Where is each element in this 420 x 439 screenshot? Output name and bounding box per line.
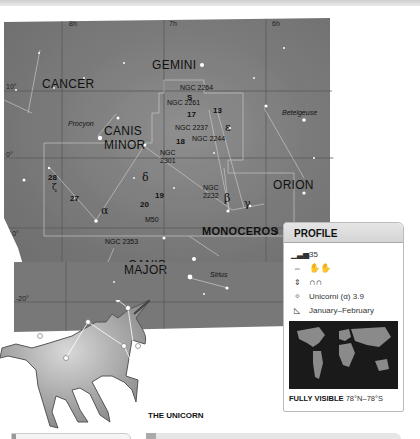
- ngc-2301-b: 2301: [160, 157, 176, 164]
- unicorn-figure: [0, 300, 150, 430]
- best-seen-value: January–February: [309, 306, 374, 315]
- ngc-2264: NGC 2264: [180, 84, 213, 91]
- ngc-2301-a: NGC: [160, 149, 176, 156]
- ngc-2353: NGC 2353: [105, 238, 138, 245]
- label-3: 3: [274, 227, 278, 236]
- profile-best-seen: ◺ January–February: [284, 303, 403, 317]
- visible-range-value: 78°N–78°S: [346, 394, 383, 403]
- label-28: 28: [48, 173, 57, 182]
- ngc-2232-a: NGC: [203, 184, 219, 191]
- constellation-orion: ORION: [273, 178, 314, 192]
- visible-label: FULLY VISIBLE: [289, 394, 344, 403]
- ngc-2261: NGC 2261: [167, 99, 200, 106]
- ngc-2232-b: 2232: [203, 192, 219, 199]
- ngc-2244: NGC 2244: [192, 135, 225, 142]
- brightest-star-value: Unicorni (α) 3.9: [309, 292, 364, 301]
- greek-epsilon: ε: [225, 121, 231, 134]
- fingers-icon: ∩∩: [309, 277, 322, 287]
- ra-label-6h: 6h: [272, 20, 280, 27]
- bottom-tab-left: [11, 433, 131, 439]
- label-17: 17: [187, 110, 196, 119]
- profile-panel: PROFILE ▁▃▅ 35 ⇔ ✋✋ ⇕ ∩∩ ✧ Unicorni (α) …: [283, 222, 404, 412]
- profile-dec-visibility: ⇕ ∩∩: [284, 275, 403, 289]
- figure-caption: THE UNICORN: [148, 411, 204, 420]
- calendar-icon: ◺: [291, 306, 303, 315]
- greek-delta: δ: [142, 171, 149, 184]
- label-27: 27: [70, 194, 79, 203]
- constellation-canis-minor-2: MINOR: [104, 138, 146, 152]
- horizontal-arrows-icon: ⇔: [291, 264, 303, 273]
- label-s: S: [187, 93, 192, 102]
- ngc-2237: NGC 2237: [175, 124, 208, 131]
- world-map-shapes: [289, 321, 398, 389]
- vertical-arrows-icon: ⇕: [291, 278, 303, 287]
- ra-label-7h: 7h: [169, 20, 177, 27]
- profile-brightest-star: ✧ Unicorni (α) 3.9: [284, 289, 403, 303]
- greek-beta: β: [224, 192, 230, 205]
- profile-title: PROFILE: [284, 223, 403, 243]
- m50: M50: [145, 216, 159, 223]
- dec-label-10: 10°: [6, 83, 17, 90]
- ra-label-8h: 8h: [69, 20, 77, 27]
- constellation-gemini: GEMINI: [152, 58, 196, 72]
- dec-label-0: 0°: [6, 151, 13, 158]
- star-sun-icon: ✧: [291, 292, 303, 301]
- hands-icon: ✋✋: [309, 263, 331, 273]
- star-chart: 8h 7h 6h 10° 0° -10° GEMINI CANCER CANIS…: [4, 18, 330, 268]
- label-18: 18: [176, 137, 185, 146]
- constellation-canis-minor-1: CANIS: [104, 124, 142, 138]
- constellation-monoceros: MONOCEROS: [202, 225, 278, 237]
- greek-alpha: α: [101, 204, 108, 217]
- size-rank-value: 35: [309, 250, 318, 259]
- star-procyon: Procyon: [68, 120, 94, 127]
- label-13: 13: [213, 106, 222, 115]
- constellation-cancer: CANCER: [42, 77, 94, 91]
- bottom-tab-right: [146, 433, 401, 439]
- label-19: 19: [155, 191, 164, 200]
- label-20: 20: [140, 200, 149, 209]
- world-map: [289, 321, 398, 389]
- profile-size-rank: ▁▃▅ 35: [284, 247, 403, 261]
- greek-zeta: ζ: [52, 182, 57, 192]
- visibility-range: FULLY VISIBLE 78°N–78°S: [289, 394, 403, 403]
- signal-bars-icon: ▁▃▅: [291, 250, 303, 259]
- star-betelgeuse: Betelgeuse: [282, 109, 317, 116]
- dec-label-minus10: -10°: [6, 230, 19, 237]
- page-top-border: [0, 0, 420, 6]
- greek-gamma: γ: [244, 197, 251, 210]
- profile-ra-visibility: ⇔ ✋✋: [284, 261, 403, 275]
